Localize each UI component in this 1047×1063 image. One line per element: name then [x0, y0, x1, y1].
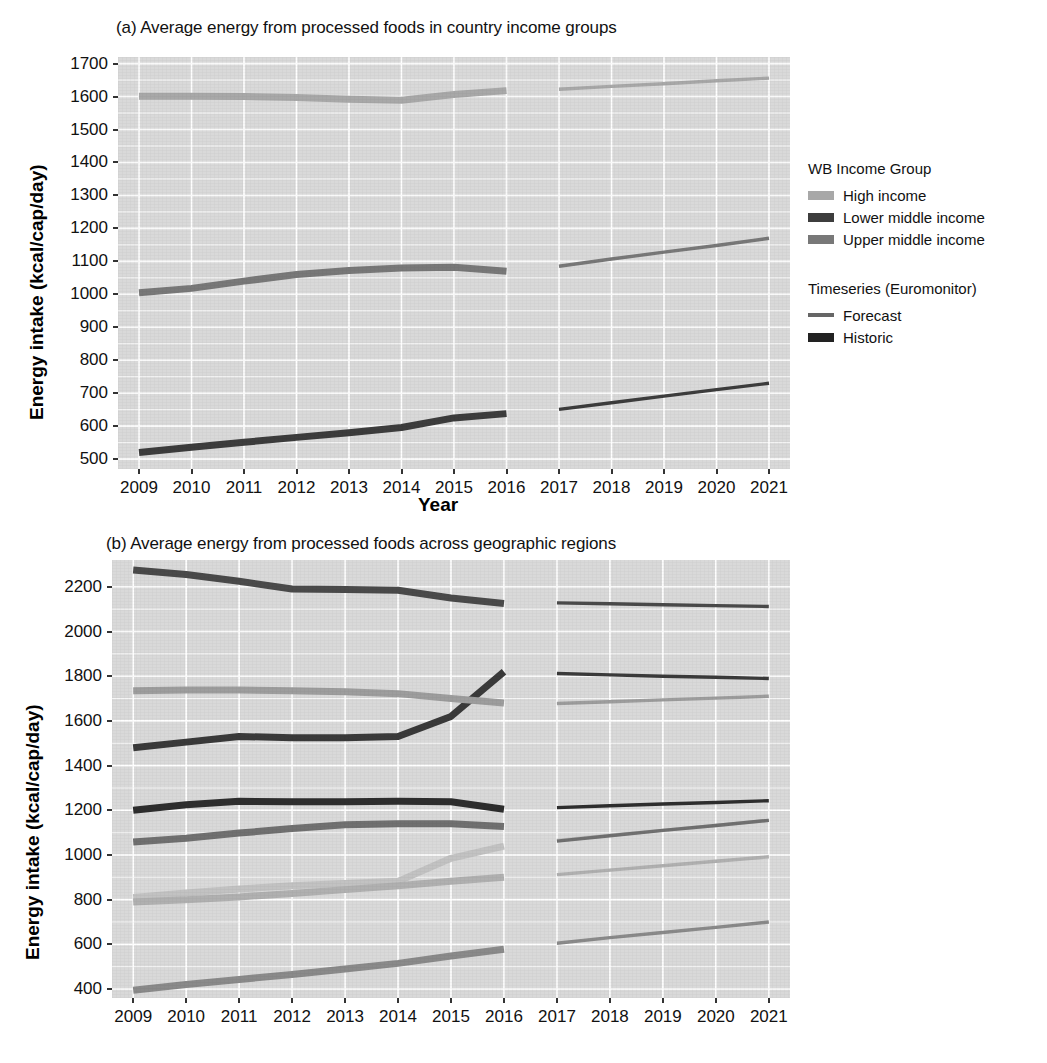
legend-item-label: Lower middle income	[843, 210, 985, 225]
y-tick-mark	[107, 943, 112, 945]
y-tick-label: 800	[74, 890, 102, 910]
x-tick-mark	[611, 469, 613, 474]
legend-item[interactable]: Forecast	[808, 304, 985, 326]
x-tick-mark	[609, 998, 611, 1003]
legend-color-swatch	[808, 313, 834, 317]
x-tick-label: 2019	[644, 1007, 682, 1027]
x-tick-mark	[768, 469, 770, 474]
x-tick-mark	[138, 469, 140, 474]
x-tick-label: 2015	[435, 478, 473, 498]
y-tick-mark	[107, 586, 112, 588]
x-tick-label: 2011	[226, 478, 263, 498]
y-tick-label: 1400	[70, 152, 108, 172]
x-tick-label: 2009	[120, 478, 158, 498]
y-tick-mark	[113, 326, 118, 328]
y-tick-mark	[113, 194, 118, 196]
x-tick-label: 2013	[326, 1007, 364, 1027]
x-tick-mark	[348, 469, 350, 474]
legend-color-swatch	[808, 235, 834, 244]
chart-panel-a: (a) Average energy from processed foods …	[0, 0, 1047, 525]
y-tick-label: 2200	[64, 577, 102, 597]
x-tick-mark	[344, 998, 346, 1003]
y-tick-label: 1000	[70, 284, 108, 304]
x-tick-mark	[291, 998, 293, 1003]
x-tick-label: 2014	[383, 478, 421, 498]
x-tick-mark	[716, 469, 718, 474]
legend-color-swatch	[808, 333, 834, 342]
x-tick-mark	[191, 469, 193, 474]
y-tick-label: 1300	[70, 185, 108, 205]
legend-item-label: Upper middle income	[843, 232, 985, 247]
x-tick-mark	[185, 998, 187, 1003]
legend-title-income-group: WB Income Group	[808, 160, 985, 177]
x-tick-label: 2017	[538, 1007, 576, 1027]
y-tick-mark	[113, 96, 118, 98]
x-tick-label: 2021	[750, 1007, 788, 1027]
y-tick-mark	[107, 899, 112, 901]
legend-item-label: High income	[843, 188, 926, 203]
y-tick-label: 1000	[64, 845, 102, 865]
chart-b-title: (b) Average energy from processed foods …	[106, 534, 616, 554]
y-tick-label: 700	[80, 383, 108, 403]
x-tick-label: 2010	[173, 478, 211, 498]
chart-panel-b: (b) Average energy from processed foods …	[0, 525, 1047, 1063]
x-tick-label: 2010	[167, 1007, 205, 1027]
x-tick-label: 2009	[114, 1007, 152, 1027]
x-tick-label: 2016	[485, 1007, 523, 1027]
y-tick-mark	[113, 293, 118, 295]
y-tick-mark	[113, 359, 118, 361]
legend-color-swatch	[808, 213, 834, 222]
y-tick-label: 400	[74, 979, 102, 999]
x-tick-label: 2012	[273, 1007, 311, 1027]
legend-item[interactable]: High income	[808, 184, 985, 206]
y-tick-label: 1200	[64, 800, 102, 820]
y-tick-label: 1800	[64, 666, 102, 686]
chart-a-legend: WB Income Group High incomeLower middle …	[808, 160, 985, 348]
x-tick-mark	[662, 998, 664, 1003]
x-tick-mark	[768, 998, 770, 1003]
legend-title-timeseries-a: Timeseries (Euromonitor)	[808, 280, 985, 297]
x-tick-label: 2020	[697, 1007, 735, 1027]
x-tick-label: 2021	[750, 478, 788, 498]
x-tick-label: 2018	[591, 1007, 629, 1027]
y-tick-mark	[113, 161, 118, 163]
y-tick-mark	[107, 631, 112, 633]
y-tick-mark	[113, 458, 118, 460]
x-tick-mark	[453, 469, 455, 474]
x-tick-mark	[506, 469, 508, 474]
x-tick-label: 2019	[645, 478, 683, 498]
y-tick-mark	[107, 765, 112, 767]
x-tick-mark	[450, 998, 452, 1003]
y-tick-mark	[107, 988, 112, 990]
y-tick-label: 1700	[70, 54, 108, 74]
y-tick-label: 800	[80, 350, 108, 370]
legend-item[interactable]: Upper middle income	[808, 228, 985, 250]
y-tick-label: 600	[80, 416, 108, 436]
x-tick-label: 2016	[488, 478, 526, 498]
x-tick-mark	[558, 469, 560, 474]
x-tick-label: 2015	[432, 1007, 470, 1027]
y-tick-label: 1600	[64, 711, 102, 731]
y-tick-label: 900	[80, 317, 108, 337]
legend-item[interactable]: Historic	[808, 326, 985, 348]
y-tick-mark	[113, 227, 118, 229]
x-tick-mark	[401, 469, 403, 474]
chart-a-title: (a) Average energy from processed foods …	[116, 18, 617, 38]
chart-b-y-axis-label: Energy intake (kcal/cap/day)	[22, 704, 44, 960]
y-tick-mark	[113, 63, 118, 65]
chart-a-y-axis-label: Energy intake (kcal/cap/day)	[26, 164, 48, 420]
y-tick-label: 600	[74, 934, 102, 954]
chart-a-plot-area	[118, 57, 790, 469]
x-tick-mark	[397, 998, 399, 1003]
y-tick-label: 1100	[71, 251, 108, 271]
legend-item[interactable]: Lower middle income	[808, 206, 985, 228]
y-tick-label: 2000	[64, 622, 102, 642]
x-tick-mark	[243, 469, 245, 474]
x-tick-mark	[296, 469, 298, 474]
y-tick-label: 500	[80, 449, 108, 469]
y-tick-label: 1200	[70, 218, 108, 238]
x-tick-label: 2017	[540, 478, 578, 498]
y-tick-mark	[107, 720, 112, 722]
x-tick-label: 2013	[330, 478, 368, 498]
x-tick-mark	[715, 998, 717, 1003]
